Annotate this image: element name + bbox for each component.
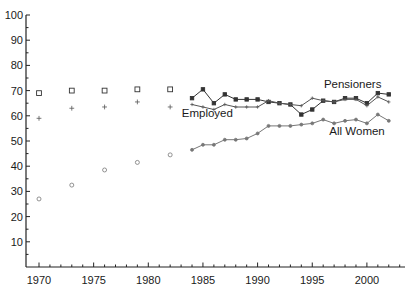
x-tick-label: 1975 [81,274,105,286]
circle-marker [354,118,357,121]
circle-marker [256,132,259,135]
plus-marker [190,103,193,106]
square-marker [245,98,248,101]
y-tick-label: 40 [11,160,23,172]
square-marker [37,91,42,96]
plus-marker [69,106,74,111]
plus-marker [168,105,173,110]
circle-marker [212,143,215,146]
circle-marker [245,137,248,140]
square-marker [102,88,107,93]
square-marker [256,98,259,101]
plus-marker [37,116,42,121]
y-tick-label: 30 [11,185,23,197]
x-ticks: 1970197519801985199019952000 [27,263,400,287]
series-layer [37,87,391,201]
circle-marker [168,153,172,157]
circle-marker [289,124,292,127]
circle-marker [191,148,194,151]
square-marker [201,88,204,91]
circle-marker [103,168,107,172]
circle-marker [300,123,303,126]
square-marker [190,96,193,99]
square-marker [234,98,237,101]
plus-marker [223,103,226,106]
y-tick-label: 50 [11,135,23,147]
series-label-employed: Employed [182,107,233,119]
annotations: PensionersEmployedAll Women [182,78,385,137]
axes: 102030405060708090100 197019751980198519… [5,9,405,286]
circle-marker [135,160,139,164]
series-label-pensioners: Pensioners [324,78,382,90]
plus-marker [102,105,107,110]
circle-marker [322,118,325,121]
square-marker [300,113,303,116]
series-label-all-women: All Women [329,125,384,137]
x-tick-label: 1980 [136,274,160,286]
y-tick-label: 100 [5,9,23,21]
plus-marker [135,100,140,105]
plus-marker [245,105,248,108]
circle-marker [344,119,347,122]
plus-marker [234,105,237,108]
circle-marker [267,124,270,127]
x-tick-label: 1995 [300,274,324,286]
circle-marker [376,113,379,116]
circle-marker [70,183,74,187]
y-tick-label: 10 [11,236,23,248]
x-tick-label: 1990 [245,274,269,286]
square-marker [387,93,390,96]
y-tick-label: 60 [11,110,23,122]
y-tick-label: 70 [11,85,23,97]
square-marker [223,93,226,96]
y-tick-label: 90 [11,34,23,46]
circle-marker [311,122,314,125]
circle-marker [387,119,390,122]
line-chart: 102030405060708090100 197019751980198519… [0,0,417,293]
circle-marker [201,143,204,146]
square-marker [135,87,140,92]
square-marker [168,87,173,92]
square-marker [69,88,74,93]
square-marker [311,108,314,111]
x-tick-label: 2000 [355,274,379,286]
square-marker [376,91,379,94]
y-tick-label: 80 [11,59,23,71]
circle-marker [234,138,237,141]
y-tick-label: 20 [11,211,23,223]
circle-marker [223,138,226,141]
square-marker [212,102,215,105]
x-tick-label: 1970 [27,274,51,286]
x-tick-label: 1985 [191,274,215,286]
circle-marker [278,124,281,127]
circle-marker [37,197,41,201]
plus-marker [387,100,390,103]
